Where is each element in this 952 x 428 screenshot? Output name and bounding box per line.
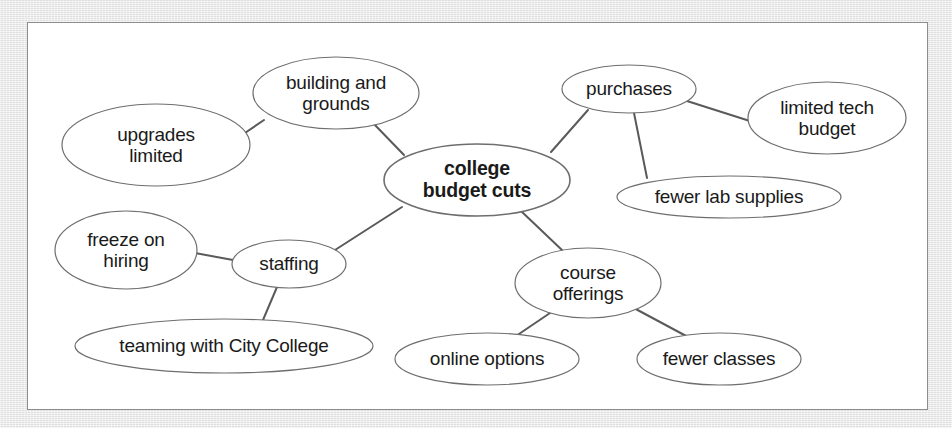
edge-course-offerings-to-online-options: [516, 311, 553, 336]
node-ellipse-fewer-lab-supplies[interactable]: [617, 176, 841, 218]
edge-central-to-staffing: [335, 207, 402, 250]
node-ellipse-staffing[interactable]: [232, 240, 346, 288]
edge-course-offerings-to-fewer-classes: [632, 307, 688, 337]
node-ellipse-limited-tech-budget[interactable]: [748, 82, 906, 154]
node-ellipse-central[interactable]: [384, 144, 570, 216]
node-layer: [55, 57, 906, 385]
node-ellipse-online-options[interactable]: [395, 333, 579, 385]
node-ellipse-purchases[interactable]: [562, 65, 696, 113]
edge-staffing-to-teaming-with-city-college: [263, 287, 277, 320]
concept-map-canvas: [0, 0, 952, 428]
edge-purchases-to-limited-tech-budget: [687, 101, 753, 122]
node-ellipse-teaming-with-city-college[interactable]: [75, 319, 373, 373]
node-ellipse-fewer-classes[interactable]: [637, 333, 801, 385]
edge-central-to-purchases: [551, 110, 588, 152]
edge-central-to-building-and-grounds: [373, 123, 404, 155]
node-ellipse-course-offerings[interactable]: [515, 248, 661, 318]
edge-purchases-to-fewer-lab-supplies: [634, 113, 647, 178]
node-ellipse-building-and-grounds[interactable]: [253, 57, 419, 129]
edge-central-to-course-offerings: [521, 211, 563, 251]
edge-staffing-to-freeze-on-hiring: [195, 253, 233, 260]
node-ellipse-upgrades-limited[interactable]: [62, 104, 250, 186]
concept-map-page: college budget cutsbuilding and groundsu…: [0, 0, 952, 428]
edge-layer: [195, 101, 753, 337]
node-ellipse-freeze-on-hiring[interactable]: [55, 211, 197, 289]
